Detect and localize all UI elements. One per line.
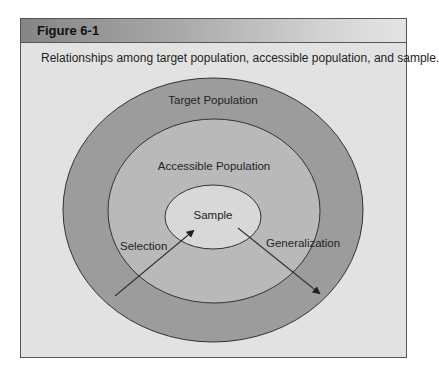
- target-population-label: Target Population: [168, 94, 258, 106]
- generalization-label: Generalization: [266, 237, 340, 249]
- accessible-population-label: Accessible Population: [158, 160, 271, 172]
- sample-label: Sample: [194, 209, 233, 221]
- selection-label: Selection: [120, 240, 167, 252]
